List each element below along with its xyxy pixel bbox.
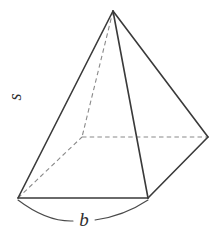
hidden-edges-group (18, 11, 208, 198)
base-edge-label: b (79, 209, 89, 230)
edge-base-front-to-right (148, 137, 208, 198)
base-measure-arc-left (18, 200, 73, 221)
base-measure-arc-right (95, 200, 148, 220)
slant-height-label: s (5, 93, 25, 100)
hidden-edge-left-to-back (18, 137, 82, 198)
edge-apex-to-base-left (18, 11, 113, 198)
pyramid-figure: s b (0, 0, 213, 231)
edge-apex-to-base-front (113, 11, 148, 198)
pyramid-drawing: s b (0, 0, 213, 231)
visible-edges-group (18, 11, 208, 198)
hidden-edge-apex-to-back (82, 11, 113, 137)
edge-apex-to-base-right (113, 11, 208, 137)
